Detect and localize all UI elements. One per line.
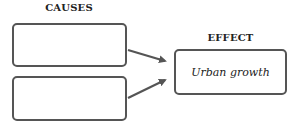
arrow-cause2-to-effect xyxy=(128,80,165,98)
effect-box[interactable]: Urban growth xyxy=(174,49,287,95)
arrow-cause1-to-effect xyxy=(128,50,165,61)
effect-box-text: Urban growth xyxy=(191,66,270,79)
effect-heading: EFFECT xyxy=(174,32,287,43)
